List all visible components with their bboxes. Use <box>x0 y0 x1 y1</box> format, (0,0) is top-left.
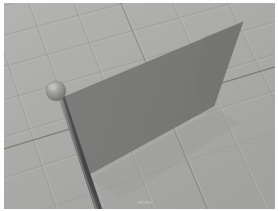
pole-sphere-finial[interactable] <box>46 81 66 101</box>
three-d-scene <box>4 3 275 209</box>
render-viewport[interactable]: render <box>0 0 278 211</box>
render-image-area[interactable]: render <box>4 3 275 209</box>
